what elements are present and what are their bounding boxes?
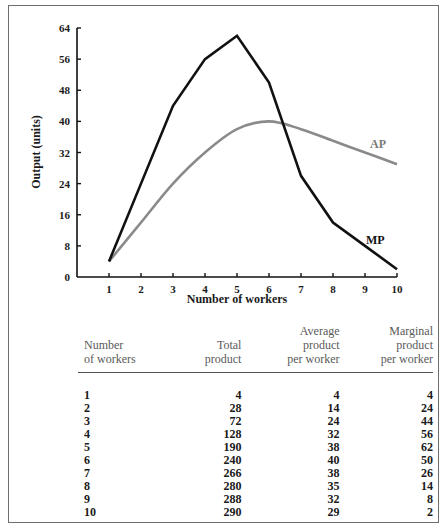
header-average-product: Average product per worker — [241, 324, 339, 373]
mp-curve — [109, 36, 397, 269]
header-workers: Number of workers — [78, 324, 163, 373]
x-tick-label: 10 — [392, 283, 404, 295]
x-axis-title: Number of workers — [187, 292, 288, 306]
cell-workers: 5 — [78, 441, 163, 454]
cell-average-product: 38 — [241, 441, 339, 454]
cell-marginal-product: 50 — [340, 454, 433, 467]
cell-average-product: 24 — [241, 415, 339, 428]
cell-average-product: 40 — [241, 454, 339, 467]
cell-marginal-product: 8 — [340, 493, 433, 506]
y-tick-label: 48 — [59, 84, 71, 96]
x-tick-label: 1 — [106, 283, 112, 295]
cell-workers: 4 — [78, 428, 163, 441]
y-tick-label: 56 — [59, 53, 71, 65]
cell-workers: 1 — [78, 373, 163, 403]
cell-workers: 6 — [78, 454, 163, 467]
x-tick-label: 2 — [138, 283, 144, 295]
y-tick-label: 0 — [65, 271, 71, 283]
y-tick-label: 32 — [59, 147, 71, 159]
table-row: 2281424 — [78, 402, 433, 415]
cell-workers: 3 — [78, 415, 163, 428]
cell-marginal-product: 56 — [340, 428, 433, 441]
cell-marginal-product: 26 — [340, 467, 433, 480]
table-row: 51903862 — [78, 441, 433, 454]
y-tick-label: 24 — [59, 178, 71, 190]
header-marginal-product: Marginal product per worker — [340, 324, 433, 373]
table-row: 9288328 — [78, 493, 433, 506]
y-tick-label: 64 — [59, 22, 71, 34]
cell-marginal-product: 14 — [340, 480, 433, 493]
cell-workers: 2 — [78, 402, 163, 415]
cell-marginal-product: 4 — [340, 373, 433, 403]
table-body: 1444228142437224444128325651903862624040… — [78, 373, 433, 520]
product-curves-chart: 0816243240485664 12345678910 Number of w… — [0, 0, 447, 320]
cell-workers: 7 — [78, 467, 163, 480]
cell-average-product: 29 — [241, 506, 339, 519]
y-axis-title: Output (units) — [29, 115, 43, 189]
table-row: 62404050 — [78, 454, 433, 467]
cell-workers: 10 — [78, 506, 163, 519]
mp-label: MP — [366, 233, 385, 247]
table-row: 72663826 — [78, 467, 433, 480]
axes — [77, 28, 397, 277]
table-row: 10290292 — [78, 506, 433, 519]
cell-marginal-product: 24 — [340, 402, 433, 415]
cell-average-product: 4 — [241, 373, 339, 403]
header-total-product: Total product — [163, 324, 242, 373]
cell-average-product: 32 — [241, 428, 339, 441]
cell-marginal-product: 62 — [340, 441, 433, 454]
table-header-row: Number of workers Total product Average … — [78, 324, 433, 373]
cell-average-product: 32 — [241, 493, 339, 506]
cell-marginal-product: 2 — [340, 506, 433, 519]
table-row: 3722444 — [78, 415, 433, 428]
ap-label: AP — [370, 137, 386, 151]
cell-total-product: 4 — [163, 373, 242, 403]
table-row: 82803514 — [78, 480, 433, 493]
x-tick-label: 8 — [330, 283, 336, 295]
y-tick-label: 40 — [59, 115, 71, 127]
cell-average-product: 14 — [241, 402, 339, 415]
cell-average-product: 35 — [241, 480, 339, 493]
ap-curve — [109, 121, 397, 261]
x-tick-label: 7 — [298, 283, 304, 295]
table-row: 41283256 — [78, 428, 433, 441]
cell-average-product: 38 — [241, 467, 339, 480]
x-tick-label: 3 — [170, 283, 176, 295]
cell-marginal-product: 44 — [340, 415, 433, 428]
y-tick-label: 16 — [59, 209, 71, 221]
table-row: 1444 — [78, 373, 433, 403]
cell-total-product: 290 — [163, 506, 242, 519]
y-tick-label: 8 — [65, 240, 71, 252]
product-table: Number of workers Total product Average … — [78, 324, 433, 519]
cell-workers: 8 — [78, 480, 163, 493]
x-tick-label: 9 — [362, 283, 368, 295]
